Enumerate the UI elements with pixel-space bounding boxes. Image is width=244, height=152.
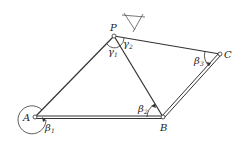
svg-text:β: β <box>137 103 144 114</box>
link-AP <box>35 36 114 117</box>
label-A: A <box>22 112 30 123</box>
svg-text:1: 1 <box>51 127 55 134</box>
joint-P <box>112 34 116 38</box>
svg-text:2: 2 <box>128 43 133 50</box>
svg-text:1: 1 <box>114 51 118 58</box>
svg-text:β: β <box>193 55 200 66</box>
joint-A <box>33 115 37 119</box>
label-B: B <box>159 122 167 133</box>
svg-text:3: 3 <box>200 60 204 67</box>
svg-text:2: 2 <box>143 108 148 115</box>
svg-text:β: β <box>44 122 51 133</box>
link-BC <box>162 53 219 116</box>
label-beta1: β 1 <box>44 122 55 134</box>
label-C: C <box>224 49 232 60</box>
triangle-symbol-icon <box>122 13 145 32</box>
label-P: P <box>109 22 117 33</box>
label-gamma2: γ 2 <box>123 38 133 50</box>
joint-B <box>161 115 165 119</box>
mechanism-diagram: A B C P β 1 β 2 β 3 γ 1 γ 2 <box>0 0 244 152</box>
joint-C <box>218 52 222 56</box>
label-beta3: β 3 <box>193 55 204 67</box>
label-beta2: β 2 <box>137 103 148 115</box>
